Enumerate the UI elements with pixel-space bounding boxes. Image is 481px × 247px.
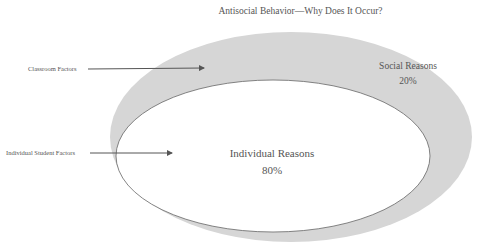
nested-ellipse-diagram (0, 0, 481, 247)
callout-classroom-factors: Classroom Factors (28, 65, 77, 72)
individual-reasons-name: Individual Reasons (222, 147, 322, 159)
individual-reasons-label: Individual Reasons 80% (222, 147, 322, 176)
social-reasons-value: 20% (378, 76, 438, 86)
individual-reasons-value: 80% (222, 164, 322, 176)
social-reasons-label: Social Reasons 20% (378, 61, 438, 86)
callout-individual-student-factors: Individual Student Factors (6, 149, 75, 156)
social-reasons-name: Social Reasons (378, 61, 438, 71)
